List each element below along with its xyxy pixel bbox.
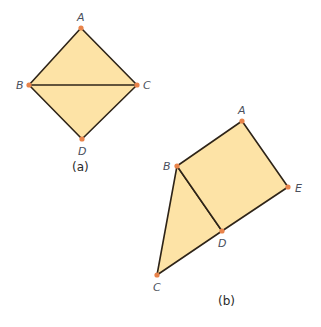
vertex-d-label: D [78, 145, 86, 158]
vertex-a-label: A [237, 104, 246, 117]
figure-a: A B C D (a) [16, 11, 151, 174]
figure-b: A B C D E (b) [153, 104, 302, 308]
vertex-c-dot [154, 272, 159, 277]
vertex-c-dot [134, 82, 139, 87]
geometry-diagram: A B C D (a) A B C D E (b) [0, 0, 321, 327]
vertex-a-dot [239, 118, 244, 123]
vertex-a-dot [78, 25, 83, 30]
vertex-c-label: C [153, 281, 161, 294]
vertex-b-dot [26, 82, 31, 87]
vertex-c-label: C [143, 79, 151, 92]
vertex-d-dot [79, 136, 84, 141]
figure-a-square [29, 28, 137, 139]
vertex-a-label: A [76, 11, 85, 24]
vertex-e-dot [285, 184, 290, 189]
vertex-b-label: B [163, 160, 171, 173]
vertex-b-dot [174, 163, 179, 168]
vertex-e-label: E [295, 182, 302, 195]
vertex-d-dot [219, 228, 224, 233]
vertex-b-label: B [16, 79, 24, 92]
figure-a-caption: (a) [72, 160, 89, 174]
figure-b-caption: (b) [218, 294, 235, 308]
vertex-d-label: D [218, 237, 226, 250]
